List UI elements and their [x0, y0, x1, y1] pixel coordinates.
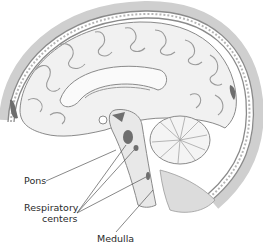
- label-pons: Pons: [24, 175, 46, 186]
- label-medulla: Medulla: [97, 233, 134, 244]
- label-respiratory-centers-line1: Respiratory: [24, 202, 78, 213]
- posterior-neck-tissue: [160, 170, 215, 212]
- cerebellum: [150, 116, 210, 164]
- label-respiratory-centers-line2: centers: [42, 213, 78, 224]
